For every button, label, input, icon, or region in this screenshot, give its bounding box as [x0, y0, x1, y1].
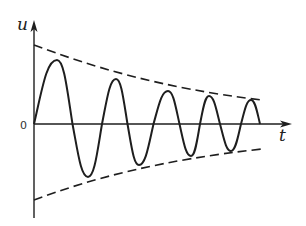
diagram-canvas: u t 0: [0, 0, 306, 226]
lower-envelope: [34, 149, 262, 200]
damped-oscillation-diagram: u t 0: [0, 0, 306, 226]
damped-wave: [34, 60, 260, 177]
origin-label: 0: [20, 119, 27, 132]
t-axis-label: t: [279, 125, 286, 145]
u-axis-label: u: [17, 14, 28, 34]
